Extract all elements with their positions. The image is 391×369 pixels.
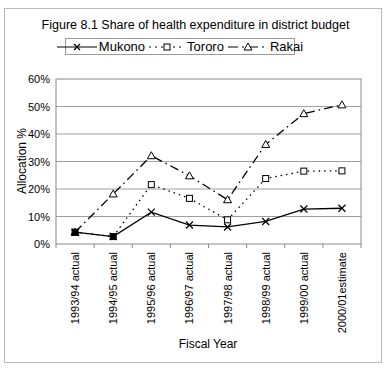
y-tick-label: 60% bbox=[28, 73, 50, 85]
gridlines bbox=[56, 107, 361, 217]
x-tick-label: 1995/96 actual bbox=[145, 252, 157, 324]
x-axis-ticks: 1993/94 actual1994/95 actual1995/96 actu… bbox=[56, 244, 361, 333]
y-tick-label: 40% bbox=[28, 128, 50, 140]
series-line-mukono bbox=[75, 208, 342, 236]
y-axis-ticks: 0%10%20%30%40%50%60% bbox=[28, 73, 50, 250]
x-tick-label: 1994/95 actual bbox=[107, 252, 119, 324]
x-tick-label: 1998/99 actual bbox=[260, 252, 272, 324]
y-tick-label: 10% bbox=[28, 211, 50, 223]
x-tick-label: 1997/98 actual bbox=[222, 252, 234, 324]
data-series bbox=[71, 101, 346, 240]
x-tick-label: 1999/00 actual bbox=[298, 252, 310, 324]
x-axis-title: Fiscal Year bbox=[179, 337, 238, 351]
y-tick-label: 50% bbox=[28, 101, 50, 113]
y-tick-label: 20% bbox=[28, 183, 50, 195]
x-tick-label: 2000/01estimate bbox=[336, 252, 348, 333]
x-tick-label: 1996/97 actual bbox=[183, 252, 195, 324]
y-tick-label: 30% bbox=[28, 156, 50, 168]
y-axis-title: Allocation % bbox=[15, 128, 29, 194]
x-tick-label: 1993/94 actual bbox=[69, 252, 81, 324]
y-tick-label: 0% bbox=[34, 238, 50, 250]
line-chart: 0%10%20%30%40%50%60% 1993/94 actual1994/… bbox=[0, 0, 391, 369]
series-line-tororo bbox=[75, 171, 342, 237]
